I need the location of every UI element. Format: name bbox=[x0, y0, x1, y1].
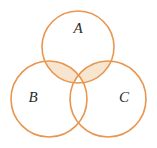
venn-diagram-canvas: A B C bbox=[0, 0, 157, 148]
venn-diagram-figure: A B C bbox=[0, 0, 157, 148]
set-label-a: A bbox=[72, 20, 83, 36]
set-label-b: B bbox=[28, 89, 37, 105]
set-label-c: C bbox=[119, 89, 130, 105]
